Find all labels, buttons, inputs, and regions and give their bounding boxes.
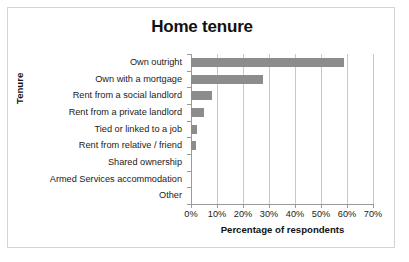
y-axis-title: Tenure bbox=[14, 73, 25, 104]
category-label: Rent from a social landlord bbox=[73, 90, 182, 101]
x-axis-tick-label: 10% bbox=[208, 209, 226, 219]
x-axis-title: Percentage of respondents bbox=[191, 224, 374, 235]
gridline bbox=[347, 54, 348, 204]
x-axis-tick-label: 20% bbox=[234, 209, 252, 219]
x-axis-tick bbox=[243, 204, 244, 208]
bar bbox=[191, 125, 197, 134]
x-axis-tick-label: 70% bbox=[364, 209, 382, 219]
plot-wrap: Own outrightOwn with a mortgageRent from… bbox=[8, 8, 396, 249]
x-axis-tick bbox=[269, 204, 270, 208]
y-axis-tick bbox=[187, 137, 191, 138]
y-axis-tick bbox=[187, 204, 191, 205]
y-axis-tick bbox=[187, 121, 191, 122]
category-label: Rent from relative / friend bbox=[79, 140, 182, 151]
x-axis-tick-label: 0% bbox=[184, 209, 197, 219]
x-axis-tick bbox=[347, 204, 348, 208]
gridline bbox=[269, 54, 270, 204]
plot-area bbox=[191, 54, 373, 204]
category-axis-labels: Own outrightOwn with a mortgageRent from… bbox=[8, 54, 187, 204]
category-label: Tied or linked to a job bbox=[94, 124, 182, 135]
x-axis-tick-label: 30% bbox=[260, 209, 278, 219]
gridline bbox=[295, 54, 296, 204]
y-axis-tick bbox=[187, 104, 191, 105]
y-axis-tick bbox=[187, 154, 191, 155]
x-axis-tick bbox=[217, 204, 218, 208]
x-axis-tick bbox=[373, 204, 374, 208]
bar bbox=[191, 75, 263, 84]
x-axis-tick-label: 60% bbox=[338, 209, 356, 219]
gridline bbox=[373, 54, 374, 204]
y-axis-tick bbox=[187, 171, 191, 172]
category-label: Own with a mortgage bbox=[95, 74, 182, 85]
category-label: Armed Services accommodation bbox=[50, 174, 182, 185]
chart-frame: Home tenure Own outrightOwn with a mortg… bbox=[7, 7, 395, 248]
category-label: Other bbox=[159, 190, 182, 201]
x-axis-tick-label: 50% bbox=[312, 209, 330, 219]
y-axis-tick bbox=[187, 54, 191, 55]
y-axis-tick bbox=[187, 71, 191, 72]
bar bbox=[191, 91, 212, 100]
x-axis-tick-label: 40% bbox=[286, 209, 304, 219]
gridline bbox=[321, 54, 322, 204]
x-axis-tick bbox=[191, 204, 192, 208]
y-axis-tick bbox=[187, 187, 191, 188]
bar bbox=[191, 108, 204, 117]
bar bbox=[191, 58, 344, 67]
x-axis-tick-labels: 0%10%20%30%40%50%60%70% bbox=[191, 209, 391, 223]
x-axis-tick bbox=[321, 204, 322, 208]
bar bbox=[191, 141, 196, 150]
y-axis-tick bbox=[187, 87, 191, 88]
x-axis-tick bbox=[295, 204, 296, 208]
category-label: Rent from a private landlord bbox=[69, 107, 182, 118]
category-label: Shared ownership bbox=[108, 157, 182, 168]
category-label: Own outright bbox=[130, 57, 182, 68]
